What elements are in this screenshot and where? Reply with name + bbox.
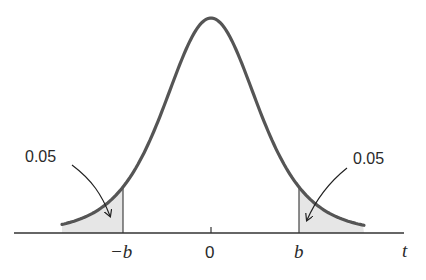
left-tail-area-label: 0.05 xyxy=(25,148,56,165)
left-tail-shade xyxy=(62,187,123,233)
t-distribution-diagram: 0.05 0.05 −b 0 b t xyxy=(0,0,426,280)
tick-label-neg-b: −b xyxy=(110,241,132,262)
tick-label-b: b xyxy=(294,241,304,262)
density-curve xyxy=(62,18,364,225)
right-tail-shade xyxy=(299,187,364,233)
axis-label-t: t xyxy=(402,240,408,261)
right-tail-area-label: 0.05 xyxy=(353,150,384,167)
tick-label-zero: 0 xyxy=(205,243,214,262)
diagram-canvas: 0.05 0.05 −b 0 b t xyxy=(0,0,426,280)
